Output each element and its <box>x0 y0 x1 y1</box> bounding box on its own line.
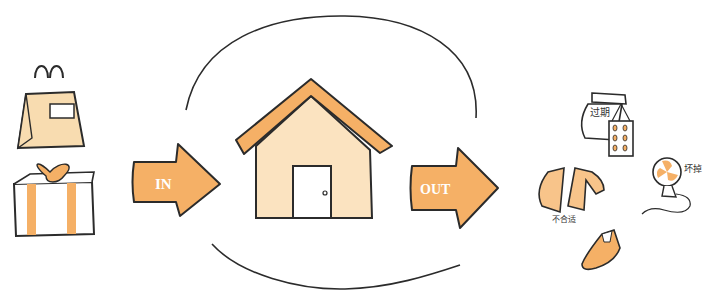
out-arrow: OUT <box>411 148 499 228</box>
shoe-icon <box>582 230 620 269</box>
cycle-arc-bottom <box>212 244 460 289</box>
jacket-icon: 不合适 <box>539 168 604 224</box>
in-arrow: IN <box>133 144 221 216</box>
expired-note: 过期 <box>590 106 610 118</box>
in-arrow-label: IN <box>155 176 172 192</box>
in-out-diagram: IN OUT 过期 不合适 <box>0 0 718 307</box>
out-arrow-label: OUT <box>420 182 451 197</box>
broken-note: 坏掉 <box>684 163 702 174</box>
door-icon <box>293 166 331 218</box>
gift-box-icon <box>14 164 94 236</box>
house-icon <box>236 79 392 218</box>
not-suitable-note: 不合适 <box>552 214 576 224</box>
food-bag-icon: 过期 <box>582 93 633 156</box>
fan-icon: 坏掉 <box>642 158 702 214</box>
shopping-bag-icon <box>18 66 84 148</box>
